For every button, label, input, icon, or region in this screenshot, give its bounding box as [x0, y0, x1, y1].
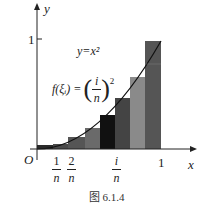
y-axis-arrow-icon [34, 3, 40, 10]
formula-fraction: in [92, 75, 101, 104]
x-tick-i-over-n: in [112, 155, 121, 184]
formula-exponent: 2 [110, 76, 115, 86]
bar-5 [100, 115, 115, 149]
y-tick-label: 1 [28, 33, 35, 46]
x-tick-1-over-n: 1n [52, 155, 61, 184]
x-axis-arrow-icon [190, 146, 197, 152]
y-axis-label: y [44, 2, 50, 15]
bar-6 [115, 98, 130, 149]
formula-lhs: f(ξᵢ) = [52, 82, 81, 97]
bar-8 [145, 41, 161, 149]
curve-label: y=x² [77, 44, 99, 59]
bar-7 [130, 77, 145, 149]
formula: f(ξᵢ) = ( in ) 2 [52, 74, 114, 104]
x-tick-one: 1 [158, 156, 165, 169]
figure-caption: 图 6.1.4 [0, 188, 213, 204]
x-tick-2-over-n: 2n [67, 155, 76, 184]
x-axis-label: x [188, 158, 194, 171]
bar-3 [68, 137, 85, 149]
origin-label: O [24, 153, 33, 166]
